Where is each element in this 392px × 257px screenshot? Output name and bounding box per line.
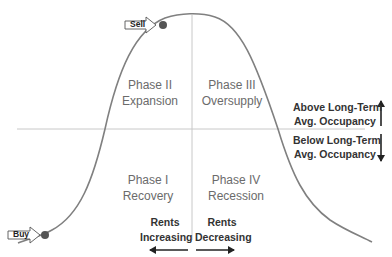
- phase-1-label: Phase I Recovery: [118, 172, 178, 204]
- below-average-occupancy-label: Below Long-Term Avg. Occupancy: [293, 133, 377, 161]
- sell-dot-icon: [159, 21, 167, 29]
- buy-dot-icon: [41, 231, 49, 239]
- phase-3-label: Phase III Oversupply: [197, 77, 267, 109]
- phase-2-label: Phase II Expansion: [120, 77, 180, 109]
- sell-label: Sell: [130, 19, 145, 29]
- buy-label: Buy: [13, 229, 29, 239]
- cycle-curve: [18, 14, 372, 243]
- rents-decreasing-label: Rents Decreasing: [195, 215, 249, 245]
- above-average-occupancy-label: Above Long-Term Avg. Occupancy: [293, 100, 377, 128]
- phase-4-label: Phase IV Recession: [205, 172, 267, 204]
- rents-increasing-label: Rents Increasing: [140, 215, 190, 245]
